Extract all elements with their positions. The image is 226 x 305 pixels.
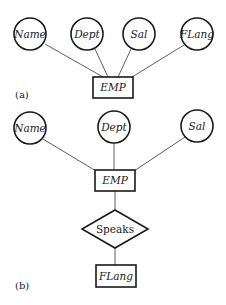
relationship-label: Speaks (96, 223, 134, 235)
diagram-b: Name Dept Sal EMP Speaks FLang (b) (13, 110, 213, 291)
attribute-label: Dept (73, 28, 100, 40)
relationship-speaks: Speaks (82, 210, 148, 248)
attribute-label: Dept (100, 121, 127, 133)
caption-a: (a) (15, 89, 29, 100)
attribute-label: Sal (189, 120, 206, 132)
attribute-flang: FLang (179, 18, 214, 50)
edge-dept-emp (95, 49, 108, 77)
attribute-dept: Dept (71, 18, 103, 50)
entity-label: EMP (99, 81, 126, 93)
attribute-label: Name (13, 28, 46, 40)
entity-label: EMP (101, 174, 128, 186)
caption-b: (b) (15, 280, 29, 291)
attribute-dept: Dept (98, 111, 130, 143)
er-diagrams: Name Dept Sal FLang EMP (a) (0, 0, 226, 305)
edge-sal-emp (134, 137, 185, 171)
edge-sal-emp (118, 49, 131, 77)
attribute-sal: Sal (181, 110, 213, 142)
entity-label: FLang (98, 270, 133, 282)
attribute-name: Name (13, 112, 46, 144)
edge-name-emp (43, 139, 96, 171)
entity-emp: EMP (95, 170, 135, 191)
attribute-label: FLang (179, 28, 214, 40)
entity-flang: FLang (96, 265, 136, 287)
entity-emp: EMP (93, 77, 133, 98)
attribute-label: Sal (131, 28, 148, 40)
attribute-name: Name (13, 18, 46, 50)
attribute-sal: Sal (123, 18, 155, 50)
attribute-label: Name (13, 122, 46, 134)
diagram-a: Name Dept Sal FLang EMP (a) (13, 18, 214, 100)
